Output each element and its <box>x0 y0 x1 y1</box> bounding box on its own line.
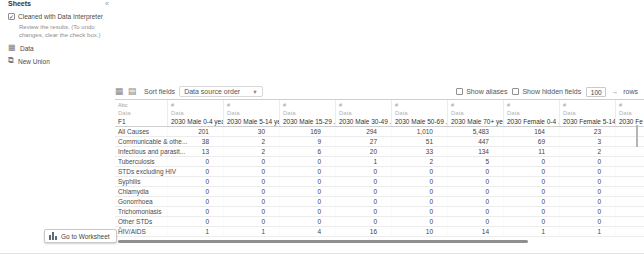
value-cell[interactable]: 2 <box>560 147 616 156</box>
value-cell[interactable]: 11 <box>504 147 560 156</box>
value-cell[interactable]: 0 <box>504 167 560 176</box>
column-header[interactable]: #Data2030 Male 30-49 ... <box>336 100 392 126</box>
value-cell[interactable]: 0 <box>280 177 336 186</box>
value-cell[interactable]: 0 <box>392 187 448 196</box>
value-cell[interactable]: 201 <box>168 127 224 136</box>
value-cell[interactable]: 0 <box>392 167 448 176</box>
value-cell[interactable] <box>616 197 644 206</box>
value-cell[interactable]: 0 <box>280 157 336 166</box>
row-label-cell[interactable]: Tuberculosis <box>115 157 168 166</box>
column-header[interactable]: #Data2030 Fe <box>616 100 644 126</box>
row-label-cell[interactable]: All Causes <box>115 127 168 136</box>
value-cell[interactable]: 294 <box>336 127 392 136</box>
value-cell[interactable]: 0 <box>336 217 392 226</box>
value-cell[interactable]: 14 <box>448 227 504 236</box>
value-cell[interactable] <box>616 187 644 196</box>
value-cell[interactable] <box>616 227 644 236</box>
value-cell[interactable]: 9 <box>280 137 336 146</box>
value-cell[interactable]: 0 <box>504 217 560 226</box>
value-cell[interactable]: 0 <box>224 197 280 206</box>
value-cell[interactable]: 0 <box>448 167 504 176</box>
value-cell[interactable]: 0 <box>336 207 392 216</box>
value-cell[interactable]: 0 <box>280 167 336 176</box>
value-cell[interactable]: 0 <box>168 177 224 186</box>
value-cell[interactable]: 0 <box>560 217 616 226</box>
value-cell[interactable]: 0 <box>504 197 560 206</box>
value-cell[interactable] <box>616 137 644 146</box>
grid-view-icon[interactable]: ▦ <box>115 87 124 96</box>
column-header[interactable]: #Data2030 Female 5-14 ... <box>560 100 616 126</box>
value-cell[interactable]: 0 <box>168 217 224 226</box>
value-cell[interactable]: 2 <box>224 147 280 156</box>
sidebar-item-data[interactable]: ▦ Data <box>0 39 115 52</box>
row-label-cell[interactable]: Chlamydia <box>115 187 168 196</box>
value-cell[interactable]: 20 <box>336 147 392 156</box>
row-label-cell[interactable]: Syphilis <box>115 177 168 186</box>
column-header[interactable]: #Data2030 Female 0-4 ... <box>504 100 560 126</box>
value-cell[interactable]: 0 <box>448 207 504 216</box>
value-cell[interactable]: 6 <box>280 147 336 156</box>
value-cell[interactable]: 447 <box>448 137 504 146</box>
value-cell[interactable]: 0 <box>560 207 616 216</box>
value-cell[interactable]: 0 <box>560 167 616 176</box>
value-cell[interactable]: 33 <box>392 147 448 156</box>
horizontal-scrollbar[interactable] <box>118 240 528 243</box>
value-cell[interactable]: 0 <box>504 177 560 186</box>
row-label-cell[interactable]: Gonorrhoea <box>115 197 168 206</box>
value-cell[interactable]: 0 <box>336 187 392 196</box>
value-cell[interactable]: 1 <box>224 227 280 236</box>
value-cell[interactable]: 23 <box>560 127 616 136</box>
row-label-cell[interactable]: Infectious and parasit... <box>115 147 168 156</box>
data-interpreter-checkbox[interactable] <box>8 13 15 20</box>
value-cell[interactable]: 0 <box>448 217 504 226</box>
value-cell[interactable]: 0 <box>448 197 504 206</box>
value-cell[interactable]: 0 <box>280 197 336 206</box>
value-cell[interactable] <box>616 217 644 226</box>
value-cell[interactable]: 1 <box>504 227 560 236</box>
rows-count-input[interactable]: 100 <box>586 87 606 97</box>
value-cell[interactable]: 0 <box>560 197 616 206</box>
value-cell[interactable]: 0 <box>336 197 392 206</box>
value-cell[interactable]: 164 <box>504 127 560 136</box>
column-header[interactable]: #Data2030 Male 0-4 yea... <box>168 100 224 126</box>
row-label-cell[interactable]: Communicable & othe... <box>115 137 168 146</box>
value-cell[interactable]: 1 <box>168 227 224 236</box>
value-cell[interactable]: 69 <box>504 137 560 146</box>
value-cell[interactable]: 0 <box>168 157 224 166</box>
value-cell[interactable]: 0 <box>560 177 616 186</box>
sort-order-dropdown[interactable]: Data source order ▼ <box>179 86 262 97</box>
value-cell[interactable]: 1,010 <box>392 127 448 136</box>
value-cell[interactable]: 4 <box>280 227 336 236</box>
value-cell[interactable]: 0 <box>224 217 280 226</box>
value-cell[interactable]: 0 <box>224 177 280 186</box>
close-icon[interactable]: × <box>118 225 122 231</box>
collapse-panel-icon[interactable]: « <box>105 0 109 7</box>
value-cell[interactable] <box>616 207 644 216</box>
row-label-cell[interactable]: Trichomoniasis <box>115 207 168 216</box>
value-cell[interactable]: 0 <box>280 217 336 226</box>
value-cell[interactable] <box>616 167 644 176</box>
show-hidden-fields-control[interactable]: Show hidden fields <box>512 88 581 95</box>
value-cell[interactable]: 0 <box>224 187 280 196</box>
value-cell[interactable]: 0 <box>392 217 448 226</box>
metadata-view-icon[interactable]: ▤ <box>128 87 137 96</box>
value-cell[interactable]: 0 <box>560 157 616 166</box>
value-cell[interactable]: 0 <box>168 207 224 216</box>
value-cell[interactable]: 30 <box>224 127 280 136</box>
vertical-scrollbar[interactable] <box>636 125 638 147</box>
column-header[interactable]: #Data2030 Male 50-69 ... <box>392 100 448 126</box>
value-cell[interactable]: 0 <box>448 187 504 196</box>
value-cell[interactable]: 3 <box>560 137 616 146</box>
value-cell[interactable]: 0 <box>224 167 280 176</box>
value-cell[interactable]: 0 <box>224 207 280 216</box>
sidebar-item-new-union[interactable]: ⧉ New Union <box>0 52 115 65</box>
row-label-cell[interactable]: STDs excluding HIV <box>115 167 168 176</box>
value-cell[interactable] <box>616 157 644 166</box>
value-cell[interactable]: 1 <box>560 227 616 236</box>
value-cell[interactable]: 0 <box>504 187 560 196</box>
value-cell[interactable]: 0 <box>392 177 448 186</box>
value-cell[interactable]: 0 <box>392 197 448 206</box>
value-cell[interactable]: 0 <box>504 157 560 166</box>
value-cell[interactable]: 5 <box>448 157 504 166</box>
value-cell[interactable] <box>616 147 644 156</box>
